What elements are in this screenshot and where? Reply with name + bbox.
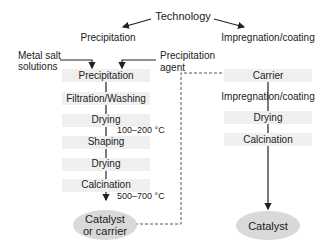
left-step-filtration: Filtration/Washing — [66, 93, 146, 104]
left-step-drying-1: Drying — [92, 114, 121, 125]
output-line2: or carrier — [83, 225, 127, 237]
input-precip-agent-line2: agent — [160, 62, 185, 73]
temp-calcination: 500–700 °C — [117, 191, 165, 202]
right-step-carrier: Carrier — [253, 70, 284, 81]
right-step-drying: Drying — [254, 112, 283, 123]
arrow-metal-salt — [60, 60, 92, 68]
arrow-precip-agent — [122, 60, 156, 68]
output-catalyst: Catalyst — [236, 211, 300, 240]
temp-drying: 100–200 °C — [117, 125, 165, 136]
left-step-drying-2: Drying — [92, 158, 121, 169]
output-catalyst-label: Catalyst — [248, 220, 288, 232]
input-metal-salt-line2: solutions — [18, 61, 57, 72]
input-precip-agent-line1: Precipitation — [160, 50, 215, 61]
left-step-shaping: Shaping — [88, 136, 125, 147]
arrow-to-precipitation — [123, 19, 151, 27]
right-step-impregnation: Impregnation/coating — [221, 91, 314, 102]
output-catalyst-or-carrier: Catalyst or carrier — [73, 210, 137, 240]
arrow-to-impregnation — [214, 19, 244, 27]
output-line1: Catalyst — [83, 213, 127, 225]
branch-precipitation: Precipitation — [80, 32, 135, 43]
title-technology: Technology — [155, 11, 211, 22]
branch-impregnation: Impregnation/coating — [221, 32, 314, 43]
left-step-precipitation: Precipitation — [78, 70, 133, 81]
right-step-calcination: Calcination — [243, 134, 292, 145]
left-step-calcination: Calcination — [81, 179, 130, 190]
input-metal-salt-line1: Metal salt — [18, 50, 61, 61]
